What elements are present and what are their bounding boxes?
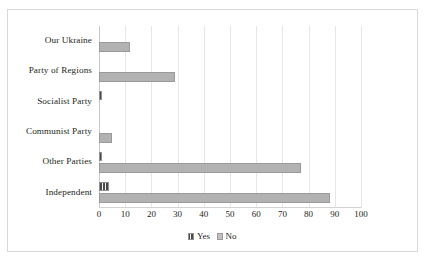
bar-yes [99, 91, 102, 100]
x-tick-label: 50 [226, 210, 235, 219]
x-tick-label: 10 [121, 210, 130, 219]
x-axis-tick-labels: 0102030405060708090100 [99, 210, 361, 224]
legend-item-yes[interactable]: Yes [188, 232, 210, 241]
chart-frame: Our UkraineParty of RegionsSocialist Par… [7, 9, 418, 252]
category-label: Independent [45, 188, 92, 197]
x-tick-label: 100 [354, 210, 368, 219]
x-tick-label: 90 [330, 210, 339, 219]
x-tick-label: 30 [173, 210, 182, 219]
bar-row: Our Ukraine [99, 26, 361, 56]
category-label: Socialist Party [37, 97, 92, 106]
bar-yes [99, 152, 102, 161]
bar-no [99, 72, 175, 82]
bar-no [99, 163, 301, 173]
bar-no [99, 193, 330, 203]
chart-legend: YesNo [8, 232, 417, 241]
bar-yes [99, 182, 109, 191]
x-tick-label: 70 [278, 210, 287, 219]
bar-no [99, 133, 112, 143]
category-label: Our Ukraine [45, 37, 92, 46]
bar-row: Communist Party [99, 117, 361, 147]
bar-no [99, 42, 130, 52]
x-tick-label: 60 [252, 210, 261, 219]
x-axis-line [99, 207, 361, 208]
bar-row: Socialist Party [99, 87, 361, 117]
bar-row: Independent [99, 178, 361, 208]
category-label: Other Parties [42, 158, 92, 167]
legend-label: No [226, 232, 237, 241]
x-tick-label: 40 [199, 210, 208, 219]
plot-area: Our UkraineParty of RegionsSocialist Par… [99, 26, 361, 208]
x-tick-label: 0 [97, 210, 102, 219]
legend-swatch-solid [217, 233, 223, 240]
x-tick-label: 80 [304, 210, 313, 219]
legend-label: Yes [197, 232, 210, 241]
bar-row: Other Parties [99, 147, 361, 177]
legend-swatch-hatched [188, 233, 194, 240]
category-label: Communist Party [26, 128, 92, 137]
category-label: Party of Regions [29, 67, 92, 76]
bar-row: Party of Regions [99, 56, 361, 86]
gridline-100 [361, 26, 362, 208]
legend-item-no[interactable]: No [217, 232, 237, 241]
x-tick-label: 20 [147, 210, 156, 219]
figure: Our UkraineParty of RegionsSocialist Par… [0, 0, 425, 276]
